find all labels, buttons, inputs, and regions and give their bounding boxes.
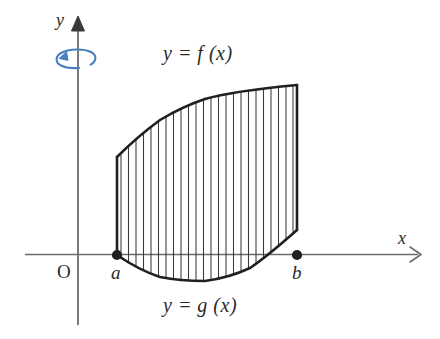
region-hatching	[121, 80, 293, 292]
figure-root: y x O a b y = f (x) y = g (x)	[0, 0, 440, 339]
origin-label: O	[57, 262, 71, 281]
y-axis-label: y	[56, 11, 64, 29]
x-axis	[25, 247, 421, 262]
point-marker-b	[292, 250, 302, 260]
curve-label-g: y = g (x)	[163, 295, 237, 315]
point-marker-a	[112, 250, 122, 260]
point-label-b: b	[292, 263, 302, 282]
rotation-arrow-icon	[57, 49, 96, 68]
curve-label-f: y = f (x)	[163, 43, 233, 63]
y-axis	[72, 16, 85, 325]
point-label-a: a	[111, 263, 121, 282]
x-axis-label: x	[398, 229, 406, 247]
y-axis-arrowhead	[72, 16, 85, 31]
